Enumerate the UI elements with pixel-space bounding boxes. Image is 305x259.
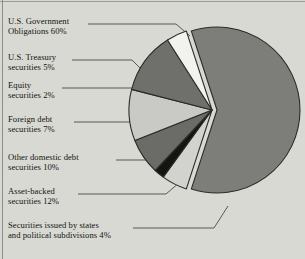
- callout-other-domestic-line2: securities 10%: [8, 162, 79, 172]
- callout-us-government-line2: Obligations 60%: [8, 26, 69, 36]
- callout-us-government: U.S. Government Obligations 60%: [8, 16, 69, 37]
- callout-foreign-debt-line1: Foreign debt: [8, 114, 52, 124]
- callout-states: Securities issued by states and politica…: [8, 220, 111, 241]
- callout-us-treasury: U.S. Treasury securities 5%: [8, 52, 56, 73]
- callout-foreign-debt: Foreign debt securities 7%: [8, 114, 55, 135]
- callout-equity-line1: Equity: [8, 80, 31, 90]
- callout-asset-backed-line1: Asset-backed: [8, 186, 55, 196]
- callout-equity: Equity securities 2%: [8, 80, 55, 101]
- callout-us-treasury-line2: securities 5%: [8, 62, 56, 72]
- callout-states-line1: Securities issued by states: [8, 220, 99, 230]
- callout-asset-backed: Asset-backed securities 12%: [8, 186, 59, 207]
- callout-states-line2: and political subdivisions 4%: [8, 230, 111, 240]
- callout-foreign-debt-line2: securities 7%: [8, 124, 55, 134]
- callout-other-domestic: Other domestic debt securities 10%: [8, 152, 79, 173]
- callout-asset-backed-line2: securities 12%: [8, 196, 59, 206]
- callout-other-domestic-line1: Other domestic debt: [8, 152, 79, 162]
- callout-labels: U.S. Government Obligations 60% U.S. Tre…: [0, 0, 305, 259]
- callout-us-treasury-line1: U.S. Treasury: [8, 52, 56, 62]
- callout-equity-line2: securities 2%: [8, 90, 55, 100]
- chart-page: U.S. Government Obligations 60% U.S. Tre…: [0, 0, 305, 259]
- callout-us-government-line1: U.S. Government: [8, 16, 69, 26]
